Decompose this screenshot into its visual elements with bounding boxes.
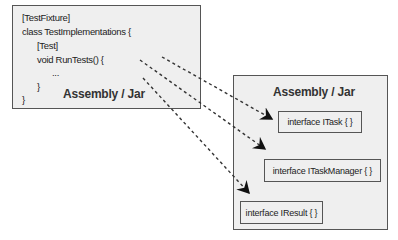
arrow-to-iresult <box>143 78 249 193</box>
dependency-arrows <box>0 0 398 240</box>
arrow-to-itask <box>162 57 272 119</box>
